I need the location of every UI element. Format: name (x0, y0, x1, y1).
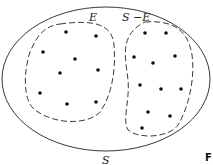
venn-diagram: E S −E S (0, 0, 213, 165)
subset-s-minus-e-label: S −E (122, 11, 150, 24)
universe-label: S (102, 154, 110, 165)
set-element-point (73, 57, 77, 61)
set-element-point (179, 87, 183, 91)
set-element-point (64, 30, 68, 34)
subset-e-label: E (88, 11, 97, 24)
set-element-point (58, 71, 62, 75)
set-element-point (65, 102, 69, 106)
subset-s-minus-e-points (132, 31, 183, 130)
set-element-point (94, 34, 98, 38)
set-element-point (41, 50, 45, 54)
subset-s-minus-e-boundary (125, 22, 193, 136)
set-element-point (38, 91, 42, 95)
set-element-point (159, 87, 163, 91)
set-element-point (151, 61, 155, 65)
set-element-point (140, 126, 144, 130)
set-element-point (143, 31, 147, 35)
set-element-point (173, 54, 177, 58)
subset-e-boundary (25, 22, 114, 121)
set-element-point (168, 114, 172, 118)
set-element-point (94, 100, 98, 104)
figure-corner-label: F (205, 152, 212, 163)
set-element-point (138, 83, 142, 87)
set-element-point (146, 110, 150, 114)
set-element-point (164, 31, 168, 35)
set-element-point (132, 55, 136, 59)
subset-e-points (38, 30, 100, 106)
set-element-point (96, 68, 100, 72)
